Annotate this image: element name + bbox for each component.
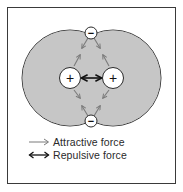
black-double-arrow-icon: [28, 150, 50, 160]
electron-bottom: −: [85, 115, 97, 127]
negative-charge-label: −: [88, 27, 94, 39]
gray-right-arrow-icon: [28, 137, 50, 147]
legend-item-repulsive: Repulsive force: [28, 148, 127, 162]
nucleus-right: +: [103, 68, 124, 89]
legend-label: Repulsive force: [53, 149, 127, 161]
nucleus-left: +: [60, 68, 81, 89]
bond-force-diagram: + + − −: [0, 0, 183, 192]
electron-top: −: [85, 27, 97, 39]
positive-charge-label: +: [66, 70, 74, 86]
legend-item-attractive: Attractive force: [28, 135, 125, 149]
negative-charge-label: −: [88, 115, 94, 127]
legend-label: Attractive force: [53, 136, 125, 148]
positive-charge-label: +: [109, 70, 117, 86]
